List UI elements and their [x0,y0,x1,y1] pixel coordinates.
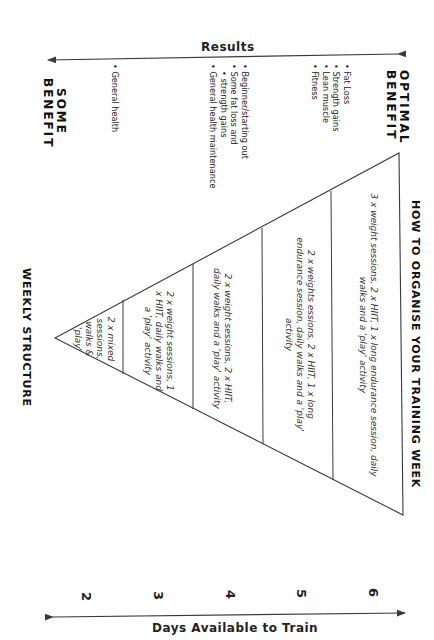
pyramid-label: WEEKLY STRUCTURE [20,268,33,407]
day-tick-2: 2 [79,592,94,601]
days-axis-arrow [53,613,405,617]
benefit-item: Strength gains [331,64,342,131]
benefit-item: General health maintenance [208,64,219,188]
some-label-line1: SOME [54,78,67,148]
day-tick-4: 4 [223,590,238,599]
benefit-item: strength gains [219,64,230,188]
benefit-item: Fat Loss [342,64,353,131]
day-tick-5: 5 [294,589,309,598]
benefit-item: Lean muscle [321,64,332,131]
page-title: HOW TO ORGANISE YOUR TRAINING WEEK [409,200,422,488]
benefit-item: General health [110,64,121,132]
tier-3-text: 2 x weight sessions, 1 x HIIT, daily wal… [142,290,175,392]
day-tick-3: 3 [151,591,166,600]
day-tick-6: 6 [366,588,381,597]
days-axis-label: Days Available to Train [152,621,318,635]
optimal-label-line2: BENEFIT [384,70,397,145]
results-axis-arrow [48,54,398,60]
some-benefit-label: SOME BENEFIT [41,78,67,148]
tier-6-text: 3 x weight sessions, 2 x HIIT, 1 x long … [357,190,379,480]
some-label-line2: BENEFIT [41,78,54,148]
benefit-item: Some fat loss and [229,64,240,188]
tier-4-text: 2 x weight sessions, 2 x HIIT, daily wal… [211,266,233,411]
tier-5-text: 2 x weights essions, 2 x HIIT, 1 x long … [283,232,316,437]
optimal-benefit-label: OPTIMAL BENEFIT [384,70,410,145]
benefit-list-middle: Beginner/starting out Some fat loss and … [208,64,250,188]
optimal-label-line1: OPTIMAL [397,70,410,145]
benefit-list-some: General health [110,64,121,132]
benefit-item: Fitness [310,64,321,131]
tier-divider-6-5 [331,191,333,480]
tier-2-text: 2 x mixed sessions, walks & 'play' [72,311,116,367]
tier-divider-5-4 [262,228,263,444]
benefit-item: Beginner/starting out [240,64,251,188]
results-axis-label: Results [201,40,255,54]
benefit-list-optimal: Fat Loss Strength gains Lean muscle Fitn… [310,64,352,131]
